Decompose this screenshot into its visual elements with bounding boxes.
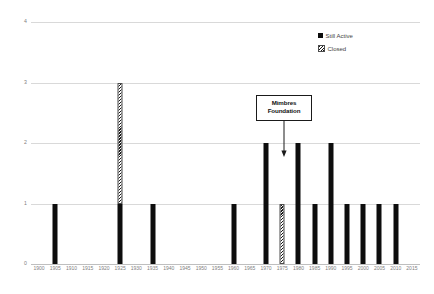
x-tick-label: 1985 (309, 266, 320, 272)
annotation-arrow-icon (280, 121, 289, 157)
bar (264, 143, 269, 264)
x-tick-label: 1990 (325, 266, 336, 272)
x-tick-label: 1905 (50, 266, 61, 272)
bar-segment-closed (118, 83, 123, 204)
bar (393, 204, 398, 265)
legend-label: Closed (328, 46, 347, 52)
annotation-line-2: Foundation (259, 107, 309, 115)
x-tick-label: 1980 (293, 266, 304, 272)
x-tick-label: 1920 (98, 266, 109, 272)
x-tick-label: 1925 (115, 266, 126, 272)
gridline (31, 22, 420, 23)
bar (150, 204, 155, 265)
x-tick-label: 1950 (196, 266, 207, 272)
y-tick-label: 4 (24, 19, 27, 24)
x-tick-label: 1975 (277, 266, 288, 272)
x-tick-label: 1930 (131, 266, 142, 272)
bar (361, 204, 366, 265)
x-tick-label: 1910 (66, 266, 77, 272)
bar-segment-still-active (377, 204, 382, 265)
x-tick-label: 2005 (374, 266, 385, 272)
y-tick-label: 3 (24, 80, 27, 85)
x-tick-label: 1945 (179, 266, 190, 272)
bar-segment-still-active (328, 143, 333, 264)
annotation-box: Mimbres Foundation (256, 95, 312, 121)
x-tick-label: 1940 (163, 266, 174, 272)
bar-chart: 43210 1900190519101915192019251930193519… (0, 0, 434, 294)
bar-segment-still-active (393, 204, 398, 265)
x-tick-label: 1915 (82, 266, 93, 272)
x-tick-label: 2010 (390, 266, 401, 272)
bar-segment-still-active (264, 143, 269, 264)
bar-segment-still-active (118, 204, 123, 265)
x-tick-label: 1935 (147, 266, 158, 272)
x-tick-label: 1995 (342, 266, 353, 272)
legend-item-closed[interactable]: Closed (318, 42, 398, 55)
x-tick-label: 1965 (244, 266, 255, 272)
bar-segment-still-active (53, 204, 58, 265)
bar (118, 83, 123, 265)
x-tick-label: 1970 (260, 266, 271, 272)
gridline (31, 83, 420, 84)
annotation-callout: Mimbres Foundation (256, 95, 312, 121)
bar-segment-still-active (150, 204, 155, 265)
x-tick-label: 2015 (406, 266, 417, 272)
x-tick-label: 2000 (358, 266, 369, 272)
x-tick-label: 1955 (212, 266, 223, 272)
bar (53, 204, 58, 265)
x-axis-ticks: 1900190519101915192019251930193519401945… (31, 266, 420, 280)
bar-segment-still-active (231, 204, 236, 265)
bar (377, 204, 382, 265)
hatched-square-icon (318, 45, 325, 52)
bar-segment-still-active (296, 143, 301, 264)
filled-square-icon (318, 33, 323, 38)
bar (280, 204, 285, 265)
legend-item-still-active[interactable]: Still Active (318, 29, 398, 42)
x-tick-label: 1960 (228, 266, 239, 272)
y-tick-label: 2 (24, 140, 27, 145)
x-tick-label: 1900 (34, 266, 45, 272)
bar (345, 204, 350, 265)
bar (328, 143, 333, 264)
annotation-line-1: Mimbres (259, 99, 309, 107)
plot-area: 43210 (31, 22, 420, 264)
bar (296, 143, 301, 264)
gridline (31, 143, 420, 144)
bar-segment-still-active (345, 204, 350, 265)
chart-legend: Still ActiveClosed (318, 29, 398, 55)
legend-label: Still Active (326, 33, 353, 39)
bar (312, 204, 317, 265)
y-tick-label: 1 (24, 201, 27, 206)
bar-segment-still-active (312, 204, 317, 265)
bar (231, 204, 236, 265)
y-tick-label: 0 (24, 261, 27, 266)
bar-segment-closed (280, 204, 285, 265)
bar-segment-still-active (361, 204, 366, 265)
